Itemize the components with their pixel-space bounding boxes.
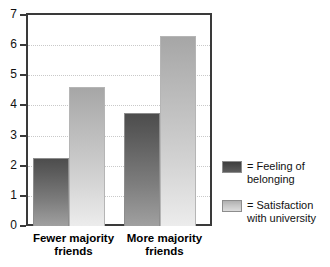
legend-label-feeling-of-belonging: = Feeling of belonging	[247, 160, 305, 185]
y-axis-tick-label: 0	[0, 219, 17, 231]
legend-swatch-light-icon	[222, 200, 242, 212]
x-axis-label-line: More majority	[109, 232, 220, 245]
y-axis-tick-label: 7	[0, 8, 17, 20]
bar-feeling-of-belonging	[33, 158, 69, 226]
bar-satisfaction-with-university	[160, 36, 196, 226]
bar-feeling-of-belonging	[124, 113, 160, 226]
plot-area	[28, 15, 210, 226]
bar-chart: 01234567 Fewer majorityfriendsMore major…	[0, 0, 330, 267]
y-axis-tick-label: 3	[0, 129, 17, 141]
y-axis-tick-label: 1	[0, 189, 17, 201]
bar-satisfaction-with-university	[69, 87, 105, 226]
legend-item-satisfaction-with-university: = Satisfaction with university	[222, 199, 328, 224]
y-axis-tick-label: 6	[0, 38, 17, 50]
y-axis-tick-label: 4	[0, 98, 17, 110]
y-axis-tick-label: 5	[0, 68, 17, 80]
y-axis-tick-label: 2	[0, 159, 17, 171]
x-axis-label-line: friends	[109, 245, 220, 258]
x-axis-label: More majorityfriends	[109, 232, 220, 258]
legend-label-satisfaction-with-university: = Satisfaction with university	[247, 199, 316, 224]
legend-item-feeling-of-belonging: = Feeling of belonging	[222, 160, 328, 185]
legend: = Feeling of belonging = Satisfaction wi…	[222, 160, 328, 238]
legend-swatch-dark-icon	[222, 161, 242, 173]
